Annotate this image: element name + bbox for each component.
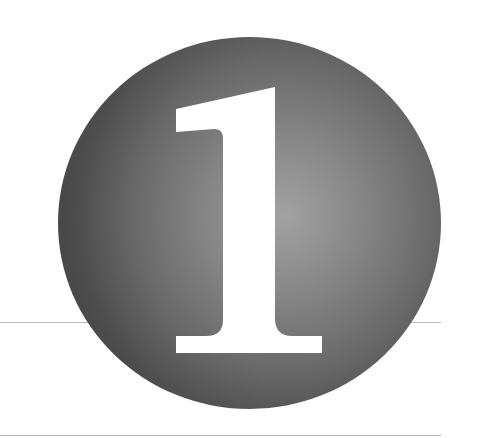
chapter-number-text: 1 [0, 0, 1, 1]
bottom-horizontal-rule [0, 435, 441, 436]
chapter-number-badge [58, 37, 441, 409]
